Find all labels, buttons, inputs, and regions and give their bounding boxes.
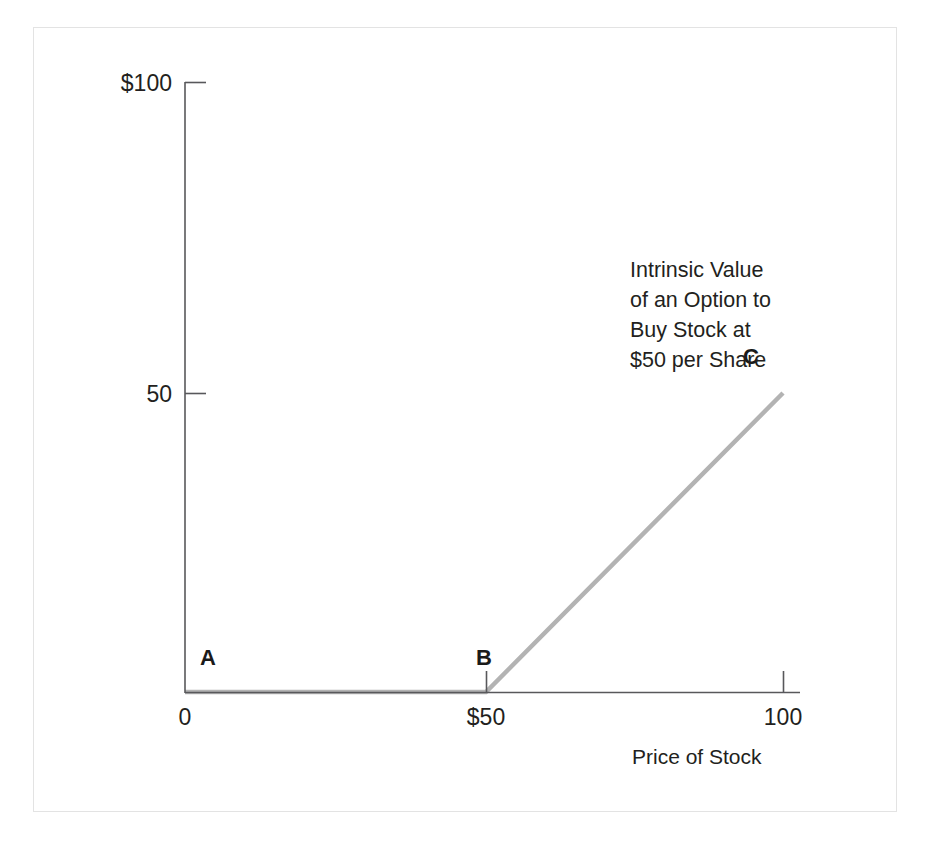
point-label-b: B: [476, 645, 492, 671]
figure-container: $100 50 0 $50 100 Price of Stock A B C I…: [0, 0, 928, 846]
x-tick-label-0: 0: [125, 704, 245, 731]
x-tick-label-50: $50: [426, 704, 546, 731]
x-tick-label-100: 100: [723, 704, 843, 731]
point-label-a: A: [200, 645, 216, 671]
y-tick-label-50: 50: [12, 381, 172, 408]
x-axis-title: Price of Stock: [632, 745, 762, 769]
intrinsic-value-annotation: Intrinsic Value of an Option to Buy Stoc…: [630, 255, 771, 375]
y-tick-label-100: $100: [12, 70, 172, 97]
